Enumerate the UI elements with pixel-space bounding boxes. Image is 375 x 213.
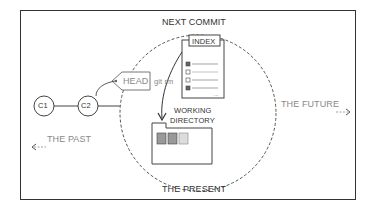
svg-text:...: ... bbox=[214, 91, 218, 97]
working-label-line1: WORKING bbox=[174, 106, 211, 115]
git-rm-label: git rm bbox=[154, 77, 173, 86]
head-label: HEAD bbox=[123, 76, 148, 86]
index-label: INDEX bbox=[192, 37, 215, 46]
the-past-label: THE PAST bbox=[47, 134, 91, 144]
commit-c1-label: C1 bbox=[38, 101, 48, 110]
commit-c2-label: C2 bbox=[81, 101, 91, 110]
head-to-c2-line bbox=[96, 81, 115, 96]
the-future-label: THE FUTURE bbox=[281, 99, 339, 109]
working-label-line2: DIRECTORY bbox=[170, 116, 215, 125]
the-present-label: THE PRESENT bbox=[162, 184, 226, 194]
head-tag-hole bbox=[115, 80, 117, 82]
next-commit-label: NEXT COMMIT bbox=[162, 17, 226, 27]
